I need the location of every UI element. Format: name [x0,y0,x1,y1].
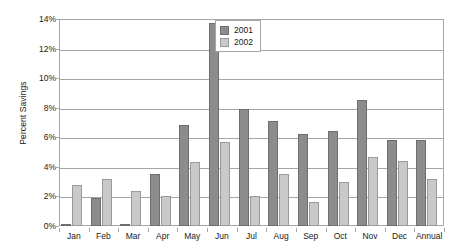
bar-2001-Oct[interactable] [328,131,338,226]
y-tick-label: 6% [10,132,56,142]
x-tick-mark [326,228,327,232]
y-tick-label: 10% [10,73,56,83]
legend-item-2002[interactable]: 2002 [220,36,253,48]
bar-2002-Feb[interactable] [102,179,112,226]
x-tick-mark [148,228,149,232]
legend-label-2002: 2002 [234,38,253,47]
bar-2002-Apr[interactable] [161,196,171,226]
bar-2001-Jan[interactable] [61,224,71,226]
x-tick-label-Jun: Jun [215,231,229,241]
bar-group [414,19,444,226]
bar-group [89,19,119,226]
x-tick-mark [118,228,119,232]
x-tick-mark [237,228,238,232]
bar-group [118,19,148,226]
x-axis-ticks: JanFebMarAprMayJunJulAugSepOctNovDecAnnu… [59,228,444,248]
x-tick-mark [296,228,297,232]
bar-2001-Annual[interactable] [416,140,426,226]
bar-2001-May[interactable] [179,125,189,226]
x-tick-mark [266,228,267,232]
x-tick-mark [414,228,415,232]
legend-swatch-2002-icon [220,38,229,47]
y-tick-label: 14% [10,14,56,24]
legend-item-2001[interactable]: 2001 [220,24,253,36]
y-tick-mark [55,226,59,227]
bar-2001-Apr[interactable] [150,174,160,226]
x-tick-label-Jul: Jul [246,231,257,241]
bar-2001-Feb[interactable] [91,198,101,226]
x-tick-label-May: May [184,231,200,241]
x-tick-label-Annual: Annual [416,231,442,241]
y-tick-label: 12% [10,44,56,54]
x-tick-label-Mar: Mar [126,231,141,241]
bar-group [385,19,415,226]
bar-2001-Jul[interactable] [239,109,249,226]
x-tick-label-Oct: Oct [334,231,347,241]
bar-2002-May[interactable] [190,162,200,226]
x-tick-label-Sep: Sep [303,231,318,241]
x-tick-label-Nov: Nov [362,231,377,241]
legend-label-2001: 2001 [234,26,253,35]
bar-group [266,19,296,226]
x-tick-label-Feb: Feb [96,231,111,241]
bar-group [326,19,356,226]
x-tick-mark [89,228,90,232]
y-tick-label: 0% [10,221,56,231]
bar-2002-Jun[interactable] [220,142,230,226]
percent-savings-bar-chart: Percent Savings 14%12%10%8%6%4%2%0% JanF… [0,0,449,252]
y-tick-label: 4% [10,162,56,172]
bar-2001-Aug[interactable] [268,121,278,226]
bar-2002-Dec[interactable] [398,161,408,226]
bar-2001-Dec[interactable] [387,140,397,226]
bar-2002-Sep[interactable] [309,202,319,226]
x-tick-mark [385,228,386,232]
bar-2002-Mar[interactable] [131,191,141,226]
y-tick-label: 2% [10,191,56,201]
x-tick-mark [444,228,445,232]
bar-2002-Aug[interactable] [279,174,289,226]
bar-group [355,19,385,226]
bar-2002-Nov[interactable] [368,157,378,226]
x-tick-mark [207,228,208,232]
bar-2001-Jun[interactable] [209,23,219,226]
bar-2001-Nov[interactable] [357,100,367,226]
bar-2002-Annual[interactable] [427,179,437,226]
y-tick-label: 8% [10,103,56,113]
x-tick-mark [355,228,356,232]
bar-2002-Oct[interactable] [339,182,349,226]
legend-swatch-2001-icon [220,26,229,35]
x-tick-label-Aug: Aug [274,231,289,241]
bar-2001-Mar[interactable] [120,224,130,226]
bar-2001-Sep[interactable] [298,134,308,226]
bar-2002-Jul[interactable] [250,196,260,226]
bar-group [148,19,178,226]
x-tick-label-Apr: Apr [156,231,169,241]
x-tick-label-Dec: Dec [392,231,407,241]
bar-2002-Jan[interactable] [72,185,82,226]
x-tick-mark [59,228,60,232]
bar-group [177,19,207,226]
x-tick-mark [177,228,178,232]
bar-group [59,19,89,226]
legend: 2001 2002 [215,20,261,52]
bar-group [296,19,326,226]
x-tick-label-Jan: Jan [67,231,81,241]
